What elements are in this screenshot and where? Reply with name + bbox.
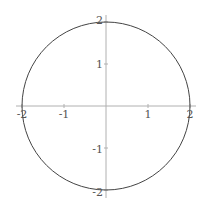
y-tick-label: 2 <box>96 14 103 27</box>
x-tick-label: -1 <box>59 108 70 121</box>
y-tick-label: -1 <box>92 143 103 156</box>
x-tick-label: 2 <box>187 108 194 121</box>
y-tick-label: -2 <box>92 186 103 199</box>
y-tick-label: 1 <box>96 58 103 71</box>
x-tick-label: 1 <box>145 108 152 121</box>
x-tick-labels: -2 -1 1 2 <box>17 108 194 121</box>
plot-area: -2 -1 1 2 2 1 -1 -2 <box>0 0 203 207</box>
x-tick-label: -2 <box>17 108 28 121</box>
